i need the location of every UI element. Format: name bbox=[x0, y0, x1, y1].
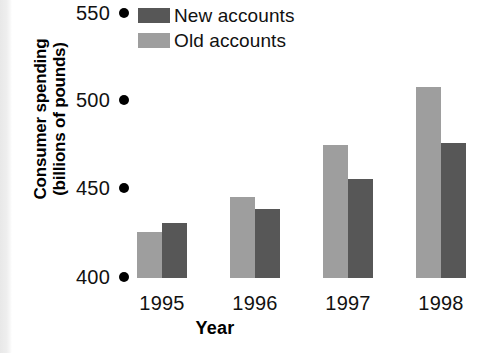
bar-new-accounts-1998 bbox=[441, 143, 466, 278]
y-axis-title-line-1: Consumer spending bbox=[31, 9, 50, 229]
y-axis-tick-dot-400 bbox=[119, 272, 129, 282]
x-axis-tick-label-1995: 1995 bbox=[127, 292, 197, 315]
bar-group-1995 bbox=[137, 10, 187, 278]
chart-figure: New accounts Old accounts Consumer spend… bbox=[0, 0, 498, 353]
bar-new-accounts-1996 bbox=[255, 209, 280, 278]
scan-edge-decoration bbox=[0, 0, 12, 353]
x-axis-tick-label-1997: 1997 bbox=[313, 292, 383, 315]
y-axis-tick-dot-550 bbox=[119, 8, 129, 18]
x-axis-tick-label-1998: 1998 bbox=[406, 292, 476, 315]
bar-old-accounts-1996 bbox=[230, 197, 255, 278]
bar-new-accounts-1997 bbox=[348, 179, 373, 278]
y-axis-tick-label-550: 550 bbox=[64, 2, 110, 25]
bar-group-1998 bbox=[416, 10, 466, 278]
y-axis-tick-label-500: 500 bbox=[64, 89, 110, 112]
x-axis-tick-label-1996: 1996 bbox=[220, 292, 290, 315]
y-axis-tick-400: 400 bbox=[64, 267, 129, 287]
bar-group-1996 bbox=[230, 10, 280, 278]
bar-group-1997 bbox=[323, 10, 373, 278]
y-axis-tick-label-400: 400 bbox=[64, 266, 110, 289]
y-axis-tick-500: 500 bbox=[64, 90, 129, 110]
bar-old-accounts-1997 bbox=[323, 145, 348, 278]
y-axis-tick-dot-450 bbox=[119, 183, 129, 193]
x-axis-title: Year bbox=[150, 318, 280, 339]
bar-old-accounts-1998 bbox=[416, 87, 441, 278]
y-axis-tick-450: 450 bbox=[64, 178, 129, 198]
bar-new-accounts-1995 bbox=[162, 223, 187, 278]
y-axis-tick-550: 550 bbox=[64, 3, 129, 23]
y-axis-tick-label-450: 450 bbox=[64, 177, 110, 200]
bar-old-accounts-1995 bbox=[137, 232, 162, 278]
plot-area: 1995 1996 1997 1998 bbox=[130, 10, 490, 278]
y-axis-tick-dot-500 bbox=[119, 95, 129, 105]
